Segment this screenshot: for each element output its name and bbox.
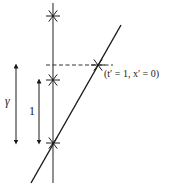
gamma-label: γ [5, 94, 10, 108]
event-coordinates-label: (t′ = 1, x′ = 0) [104, 68, 159, 80]
spacetime-diagram: γ 1 (t′ = 1, x′ = 0) [0, 0, 174, 193]
event-t-prime-1-star-marker [91, 59, 105, 70]
diagonal-worldline [31, 25, 121, 183]
unit-label: 1 [29, 104, 35, 118]
